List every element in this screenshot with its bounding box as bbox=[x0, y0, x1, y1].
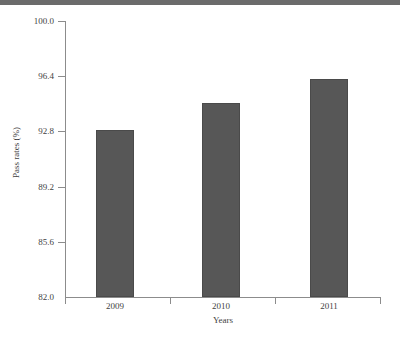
y-tick-label-96-4: 96.4 bbox=[0, 72, 54, 81]
y-tick-mark bbox=[58, 187, 66, 188]
bar-2010 bbox=[202, 103, 240, 297]
x-tick-label-2011: 2011 bbox=[294, 300, 364, 312]
x-tick-label-2009: 2009 bbox=[80, 300, 150, 312]
y-axis-line bbox=[65, 21, 66, 298]
y-tick-mark bbox=[58, 21, 66, 22]
x-tick-mark bbox=[380, 297, 381, 304]
x-tick-mark bbox=[65, 297, 66, 304]
bar-2011 bbox=[310, 79, 348, 297]
y-tick-mark bbox=[58, 242, 66, 243]
x-tick-mark bbox=[275, 297, 276, 304]
y-tick-label-92-8: 92.8 bbox=[0, 127, 54, 136]
x-tick-label-2010: 2010 bbox=[186, 300, 256, 312]
y-tick-label-89-2: 89.2 bbox=[0, 183, 54, 192]
y-tick-label-100: 100.0 bbox=[0, 17, 54, 26]
y-tick-label-82: 82.0 bbox=[0, 293, 54, 302]
y-axis-title: Pass rates (%) bbox=[11, 93, 22, 213]
bar-chart-figure: 100.0 96.4 92.8 89.2 85.6 82.0 2009 2010… bbox=[0, 0, 400, 340]
x-axis-line bbox=[65, 297, 381, 298]
x-tick-mark bbox=[170, 297, 171, 304]
y-tick-label-85-6: 85.6 bbox=[0, 238, 54, 247]
bar-2009 bbox=[96, 130, 134, 297]
x-axis-title: Years bbox=[65, 315, 381, 326]
y-tick-mark bbox=[58, 76, 66, 77]
y-tick-mark bbox=[58, 131, 66, 132]
